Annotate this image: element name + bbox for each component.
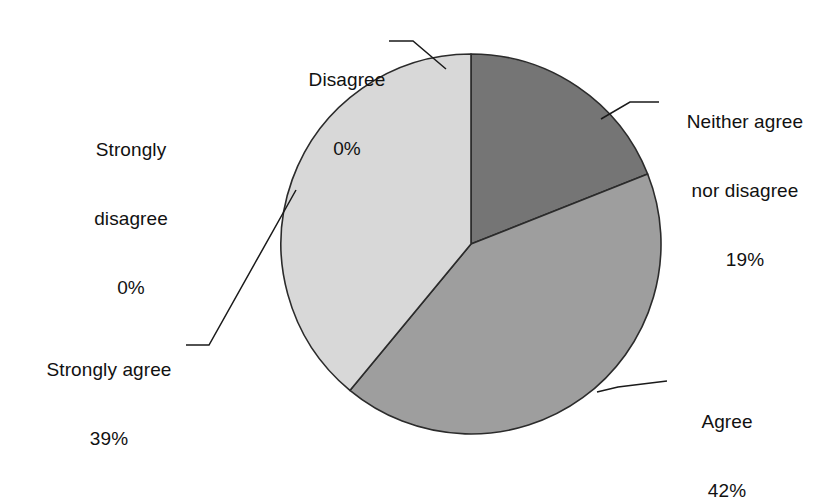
pie-label-disagree-percent: 0% bbox=[283, 137, 411, 160]
pie-label-strongly-disagree: Strongly disagree 0% bbox=[57, 92, 205, 345]
pie-label-agree: Agree 42% bbox=[672, 364, 782, 501]
pie-label-strongly-agree-name: Strongly agree bbox=[14, 358, 204, 381]
leader-line-agree bbox=[597, 381, 667, 392]
pie-label-disagree-name: Disagree bbox=[283, 68, 411, 91]
pie-label-neither-line1: Neither agree bbox=[664, 110, 825, 133]
pie-label-strongly-disagree-line2: disagree bbox=[57, 207, 205, 230]
pie-label-disagree: Disagree 0% bbox=[283, 22, 411, 206]
pie-label-neither-line2: nor disagree bbox=[664, 179, 825, 202]
pie-label-strongly-disagree-percent: 0% bbox=[57, 276, 205, 299]
pie-label-agree-name: Agree bbox=[672, 410, 782, 433]
pie-label-strongly-disagree-line1: Strongly bbox=[57, 138, 205, 161]
pie-label-agree-percent: 42% bbox=[672, 479, 782, 501]
pie-label-strongly-agree: Strongly agree 39% bbox=[14, 312, 204, 496]
pie-label-neither-agree-nor-disagree: Neither agree nor disagree 19% bbox=[664, 64, 825, 317]
pie-label-neither-percent: 19% bbox=[664, 248, 825, 271]
pie-label-strongly-agree-percent: 39% bbox=[14, 427, 204, 450]
